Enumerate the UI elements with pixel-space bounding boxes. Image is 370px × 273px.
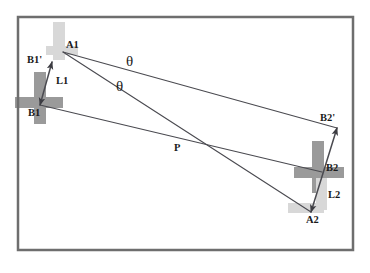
segment-label-A2-B2p: L2 bbox=[328, 190, 340, 201]
point-label-B2: B2 bbox=[326, 163, 338, 174]
point-label-A2: A2 bbox=[306, 215, 319, 226]
diagram-canvas: A1B1'B1PB2'B2A2L1L2θθ bbox=[0, 0, 370, 273]
point-label-P: P bbox=[174, 143, 180, 154]
diagram-svg bbox=[0, 0, 370, 273]
segment-A1-B2p bbox=[63, 52, 337, 128]
segment-A1-A2 bbox=[63, 52, 311, 212]
point-label-B2p: B2' bbox=[320, 113, 335, 124]
point-label-B1: B1 bbox=[28, 108, 40, 119]
marker-bands-group bbox=[15, 22, 344, 213]
angle-label-theta-upper: θ bbox=[126, 54, 133, 69]
point-label-B1p: B1' bbox=[27, 55, 42, 66]
segment-label-B1-B1p: L1 bbox=[56, 76, 68, 87]
segment-B1-B2 bbox=[40, 105, 322, 172]
segment-lines-group bbox=[40, 52, 337, 212]
point-label-A1: A1 bbox=[66, 40, 79, 51]
marker-a2-light-h bbox=[288, 203, 324, 213]
angle-label-theta-lower: θ bbox=[116, 79, 123, 94]
